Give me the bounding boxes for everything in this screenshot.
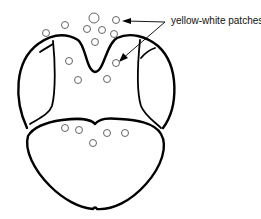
patch-circle bbox=[99, 27, 106, 34]
left-tonsil-line bbox=[30, 41, 55, 124]
tongue-diagram bbox=[0, 0, 261, 219]
patch-circle bbox=[75, 77, 82, 84]
patch-circle bbox=[89, 13, 99, 23]
patch-circle bbox=[76, 127, 83, 134]
patch-circle bbox=[43, 30, 50, 37]
patch-circle bbox=[104, 130, 111, 137]
patch-circle bbox=[62, 125, 69, 132]
patch-circle bbox=[84, 26, 91, 33]
annotation-label: yellow-white patches bbox=[171, 15, 261, 26]
patch-circle bbox=[111, 31, 118, 38]
leader-line-top bbox=[126, 21, 165, 22]
patch-circle bbox=[113, 17, 120, 24]
patch-circle bbox=[92, 39, 99, 46]
right-tonsil-line bbox=[138, 40, 161, 128]
arrowhead-top-icon bbox=[122, 18, 131, 24]
patch-circle bbox=[62, 22, 69, 29]
leader-line-lower bbox=[122, 22, 165, 59]
patch-circle bbox=[90, 140, 97, 147]
patch-circle bbox=[113, 60, 120, 67]
patch-circle bbox=[66, 58, 73, 65]
patch-circle bbox=[104, 76, 111, 83]
tongue-body bbox=[27, 119, 164, 210]
left-tonsil-diagonal bbox=[40, 44, 53, 52]
arrowhead-lower-icon bbox=[119, 53, 128, 62]
right-tonsil-diagonal bbox=[141, 48, 155, 58]
patch-circle bbox=[122, 130, 129, 137]
